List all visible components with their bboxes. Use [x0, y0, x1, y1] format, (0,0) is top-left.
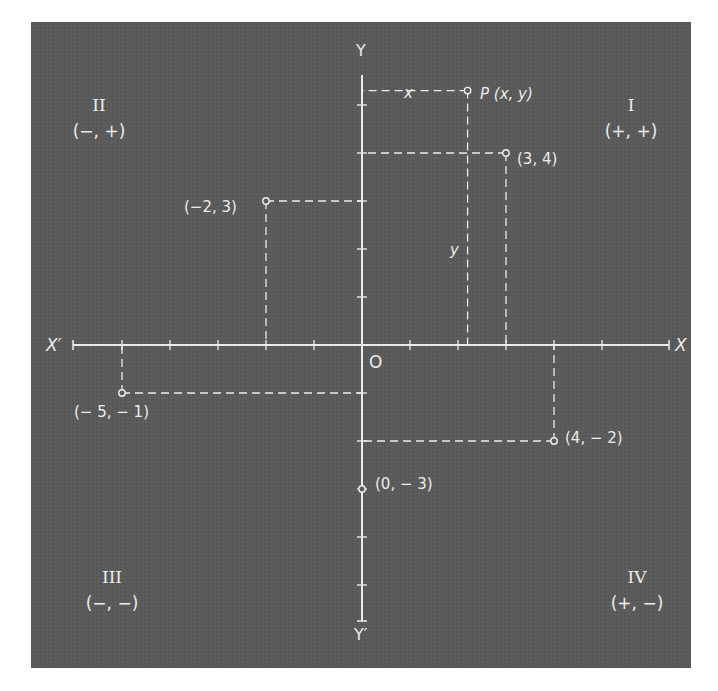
- origin-label: O: [369, 352, 382, 372]
- y-prime-axis-label: Y′: [353, 625, 368, 644]
- point-marker: [551, 438, 557, 444]
- point-marker: [503, 150, 509, 156]
- quadrant-1-signs: (+, +): [605, 121, 658, 141]
- general-point-x-label: x: [403, 84, 413, 102]
- quadrant-2-numeral: II: [92, 95, 105, 115]
- quadrant-4-signs: (+, −): [611, 593, 664, 613]
- point-label-3-4: (3, 4): [517, 150, 557, 168]
- general-point-y-label: y: [449, 241, 460, 259]
- quadrant-2-signs: (−, +): [73, 121, 126, 141]
- general-point-label: P (x, y): [480, 85, 533, 103]
- y-axis-label: Y: [355, 41, 366, 60]
- axes: [73, 75, 669, 621]
- point-marker: [359, 486, 365, 492]
- quadrant-3-numeral: III: [102, 567, 122, 587]
- projection-lines: [122, 91, 554, 441]
- point-label-4-neg2: (4, − 2): [565, 429, 623, 447]
- x-axis-label: X: [674, 335, 687, 355]
- x-prime-axis-label: X′: [45, 335, 62, 355]
- point-marker: [464, 87, 470, 93]
- point-marker: [263, 198, 269, 204]
- plotted-points: [119, 87, 557, 492]
- quadrant-4-numeral: IV: [628, 567, 648, 587]
- quadrant-3-signs: (−, −): [86, 593, 139, 613]
- quadrant-1-numeral: I: [628, 95, 635, 115]
- point-label-neg2-3: (−2, 3): [184, 198, 237, 216]
- point-label-0-neg3: (0, − 3): [375, 475, 433, 493]
- point-label-neg5-neg1: (− 5, − 1): [74, 403, 149, 421]
- point-marker: [119, 390, 125, 396]
- coordinate-plane: X X′ Y Y′ O I (+, +) II (−, +) III (−, −…: [0, 0, 718, 691]
